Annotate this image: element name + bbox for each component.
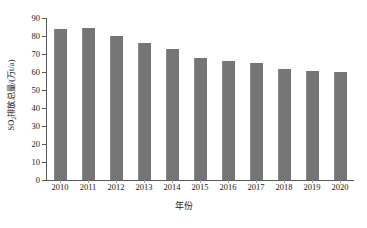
x-axis-tick-label: 2011 [74, 182, 102, 192]
x-axis-tick-label: 2020 [326, 182, 354, 192]
x-axis-tick-label: 2010 [46, 182, 74, 192]
y-axis-title-prefix: SO [7, 120, 16, 131]
x-axis-tick-label: 2012 [102, 182, 130, 192]
bar [334, 72, 347, 180]
x-axis-tick-label: 2018 [270, 182, 298, 192]
x-axis-tick-label: 2019 [298, 182, 326, 192]
x-axis-tick-label: 2016 [214, 182, 242, 192]
y-axis-title-text: SO2排放总量/(万t/a) [4, 59, 16, 130]
y-axis-tick-label: 20 [32, 139, 41, 150]
y-axis-tick-label: 0 [36, 175, 40, 186]
x-axis-tick-label: 2014 [158, 182, 186, 192]
y-axis-tick-label: 50 [32, 85, 41, 96]
y-axis-tick-label: 10 [32, 157, 41, 168]
y-axis-tick-label: 90 [32, 13, 41, 24]
plot-area: 0102030405060708090 [46, 18, 354, 180]
y-axis-tick-label: 80 [32, 31, 41, 42]
bar [306, 71, 319, 180]
y-axis-title: SO2排放总量/(万t/a) [0, 0, 20, 190]
x-axis-tick-label: 2013 [130, 182, 158, 192]
bar [250, 63, 263, 180]
bar [82, 28, 95, 180]
bar [166, 49, 179, 180]
bar [54, 29, 67, 180]
x-axis-tick-labels: 2010201120122013201420152016201720182019… [46, 182, 354, 196]
x-axis-tick-label: 2015 [186, 182, 214, 192]
bars-layer [46, 18, 354, 180]
bar [278, 69, 291, 180]
x-axis-title: 年份 [0, 199, 367, 212]
x-axis-tick-label: 2017 [242, 182, 270, 192]
bar [222, 61, 235, 180]
y-axis-tick-label: 40 [32, 103, 41, 114]
y-axis-tick-label: 70 [32, 49, 41, 60]
bar [138, 43, 151, 180]
bar-chart: SO2排放总量/(万t/a) 0102030405060708090 20102… [0, 0, 367, 228]
y-axis-tick-label: 60 [32, 67, 41, 78]
bar [194, 58, 207, 180]
y-axis-tick-label: 30 [32, 121, 41, 132]
y-axis-title-suffix: 排放总量/(万t/a) [7, 59, 16, 116]
bar [110, 36, 123, 180]
y-axis-tick-mark [42, 180, 46, 181]
y-axis-title-subscript: 2 [11, 117, 17, 120]
